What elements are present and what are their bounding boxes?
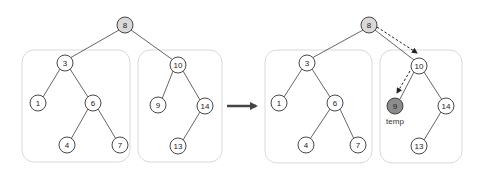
node-8-root: 8 (117, 17, 133, 33)
svg-text:8: 8 (123, 21, 128, 30)
svg-text:1: 1 (36, 99, 41, 108)
svg-text:7: 7 (356, 141, 361, 150)
svg-text:7: 7 (118, 141, 123, 150)
svg-text:10: 10 (415, 62, 424, 71)
svg-text:10: 10 (174, 61, 183, 70)
node-8-root: 8 (361, 17, 377, 33)
svg-text:8: 8 (367, 21, 372, 30)
svg-text:14: 14 (201, 102, 210, 111)
svg-text:4: 4 (304, 141, 309, 150)
node-14: 14 (197, 98, 213, 114)
node-4: 4 (298, 137, 314, 153)
node-9: 9 (150, 97, 166, 113)
svg-text:6: 6 (91, 99, 96, 108)
svg-text:3: 3 (305, 59, 310, 68)
node-3: 3 (57, 55, 73, 71)
svg-text:14: 14 (442, 102, 451, 111)
svg-text:4: 4 (65, 141, 70, 150)
node-6: 6 (327, 95, 343, 111)
svg-text:13: 13 (174, 142, 183, 151)
tree-after: 8 3 1 6 4 7 10 9 14 13 temp (265, 17, 462, 163)
svg-text:6: 6 (333, 99, 338, 108)
svg-text:13: 13 (415, 142, 424, 151)
node-3: 3 (299, 55, 315, 71)
bst-diagram: 8 3 1 6 4 7 10 9 14 13 8 3 1 6 4 7 10 9 (0, 0, 480, 177)
node-10: 10 (411, 58, 427, 74)
node-1: 1 (271, 95, 287, 111)
node-4: 4 (59, 137, 75, 153)
node-13: 13 (411, 138, 427, 154)
node-7: 7 (350, 137, 366, 153)
temp-label: temp (386, 117, 404, 126)
svg-text:1: 1 (277, 99, 282, 108)
svg-text:9: 9 (156, 101, 161, 110)
node-13: 13 (170, 138, 186, 154)
node-6: 6 (85, 95, 101, 111)
node-14: 14 (438, 98, 454, 114)
tree-before: 8 3 1 6 4 7 10 9 14 13 (22, 17, 222, 162)
traversal-arrow-8-to-10 (377, 27, 417, 53)
svg-text:3: 3 (63, 59, 68, 68)
node-10: 10 (170, 57, 186, 73)
node-7: 7 (112, 137, 128, 153)
node-9-temp: 9 (387, 98, 403, 114)
node-1: 1 (30, 95, 46, 111)
svg-text:9: 9 (393, 102, 398, 111)
